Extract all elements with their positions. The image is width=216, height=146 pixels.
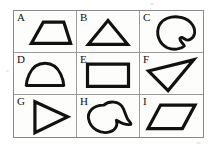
shape-path xyxy=(26,63,64,85)
cell-label-b: B xyxy=(80,11,87,23)
cell-label-c: C xyxy=(143,11,150,23)
scan-speck xyxy=(6,70,9,72)
grid-cell-g[interactable]: G xyxy=(14,95,77,137)
cell-label-f: F xyxy=(143,53,149,65)
shape-path xyxy=(148,60,193,91)
grid-cell-h[interactable]: H xyxy=(77,95,140,137)
grid-cell-i[interactable]: I xyxy=(140,95,203,137)
scan-speck xyxy=(150,3,154,5)
cell-label-h: H xyxy=(80,95,88,107)
shape-triangle-scalene-icon xyxy=(140,53,203,94)
shape-path xyxy=(148,105,195,129)
shape-path xyxy=(35,102,68,133)
shape-path xyxy=(158,17,195,49)
shape-path xyxy=(88,64,129,86)
cell-label-a: A xyxy=(17,11,25,23)
shapes-grid: A B C D E xyxy=(13,10,204,138)
shape-path xyxy=(88,102,131,133)
grid-cell-d[interactable]: D xyxy=(14,53,77,95)
cell-label-i: I xyxy=(143,95,147,107)
grid-cell-a[interactable]: A xyxy=(14,11,77,53)
grid-cell-e[interactable]: E xyxy=(77,53,140,95)
cell-label-d: D xyxy=(17,53,25,65)
cell-label-e: E xyxy=(80,53,87,65)
scan-speck xyxy=(196,142,201,144)
grid-cell-f[interactable]: F xyxy=(140,53,203,95)
shape-parallelogram-icon xyxy=(140,95,203,137)
grid-cell-b[interactable]: B xyxy=(77,11,140,53)
cell-label-g: G xyxy=(17,95,25,107)
grid-cell-c[interactable]: C xyxy=(140,11,203,53)
shape-path xyxy=(31,22,70,43)
shape-path xyxy=(88,20,127,44)
